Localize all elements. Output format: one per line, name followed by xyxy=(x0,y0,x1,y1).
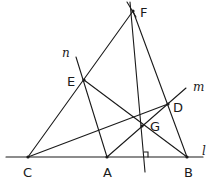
line-n xyxy=(76,57,107,157)
perpendicular-line xyxy=(130,2,145,172)
point-g xyxy=(140,124,143,127)
label-n: n xyxy=(62,46,70,60)
point-c xyxy=(26,155,29,158)
point-f xyxy=(131,9,134,12)
label-c: C xyxy=(23,165,32,180)
segment-cf xyxy=(28,11,133,157)
point-b xyxy=(185,155,188,158)
segment-fb xyxy=(133,11,187,157)
label-f: F xyxy=(140,5,147,20)
label-b: B xyxy=(184,165,193,180)
geometry-diagram: F E D G C A B l m n xyxy=(0,0,212,182)
point-a xyxy=(105,155,108,158)
label-d: D xyxy=(173,100,183,115)
point-d xyxy=(166,102,169,105)
segment-eb xyxy=(84,80,187,157)
right-angle-mark xyxy=(144,152,148,157)
point-e xyxy=(82,78,85,81)
label-m: m xyxy=(193,80,204,94)
segment-cd xyxy=(28,104,168,157)
label-l: l xyxy=(202,144,206,158)
label-g: G xyxy=(150,119,160,134)
label-e: E xyxy=(67,74,75,89)
label-a: A xyxy=(103,165,112,180)
